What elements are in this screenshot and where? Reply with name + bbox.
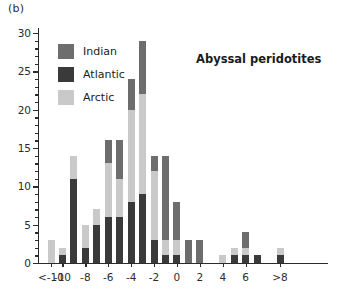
- bar-segment-atlantic: [70, 179, 77, 263]
- x-tick: [51, 263, 52, 267]
- x-tick: [108, 263, 109, 267]
- y-tick: [35, 202, 38, 203]
- x-tick: [131, 263, 132, 267]
- x-tick-label: -6: [103, 271, 113, 283]
- bar: [139, 41, 146, 263]
- bar-segment-arctic: [173, 240, 180, 255]
- y-tick: [35, 64, 38, 65]
- bar: [116, 140, 123, 263]
- bar-segment-atlantic: [93, 225, 100, 263]
- legend-label-atlantic: Atlantic: [83, 68, 125, 81]
- x-tick-label: 6: [242, 271, 249, 283]
- bar-segment-atlantic: [242, 255, 249, 263]
- y-tick: [35, 41, 38, 42]
- x-tick-label: -2: [149, 271, 159, 283]
- y-tick-label: 20: [18, 104, 31, 116]
- y-tick: [35, 179, 38, 180]
- legend-item-atlantic: Atlantic: [58, 67, 125, 82]
- x-tick: [280, 263, 281, 267]
- y-tick: [35, 240, 38, 241]
- bar: [128, 79, 135, 263]
- bar-segment-atlantic: [59, 255, 66, 263]
- bar: [105, 140, 112, 263]
- bar: [93, 209, 100, 263]
- y-tick-label: 30: [18, 27, 31, 39]
- legend-swatch-atlantic: [58, 67, 74, 82]
- x-tick: [200, 263, 201, 267]
- bar-segment-arctic: [116, 179, 123, 217]
- y-tick: [33, 110, 39, 111]
- bar: [242, 232, 249, 263]
- y-tick: [33, 71, 39, 72]
- legend-label-arctic: Arctic: [83, 91, 114, 104]
- y-tick: [35, 248, 38, 249]
- y-tick-label: 0: [24, 257, 31, 269]
- y-tick: [35, 163, 38, 164]
- bar: [70, 156, 77, 263]
- x-tick: [154, 263, 155, 267]
- x-tick: [246, 263, 247, 267]
- bar: [48, 240, 55, 263]
- y-tick: [35, 171, 38, 172]
- bar-segment-arctic: [277, 248, 284, 256]
- legend-item-indian: Indian: [58, 44, 125, 59]
- y-tick: [33, 186, 39, 187]
- y-tick: [35, 232, 38, 233]
- x-tick: [62, 263, 63, 267]
- bar-segment-indian: [105, 140, 112, 163]
- bar-segment-indian: [151, 156, 158, 171]
- bar-segment-atlantic: [116, 217, 123, 263]
- bar-segment-atlantic: [254, 255, 261, 263]
- bar-segment-indian: [185, 240, 192, 263]
- y-tick: [33, 225, 39, 226]
- bar: [173, 202, 180, 263]
- bar: [277, 248, 284, 263]
- legend-item-arctic: Arctic: [58, 90, 125, 105]
- legend: Indian Atlantic Arctic: [58, 44, 125, 113]
- y-tick: [33, 33, 39, 34]
- bar-segment-arctic: [162, 240, 169, 255]
- x-tick: [177, 263, 178, 267]
- legend-label-indian: Indian: [83, 45, 117, 58]
- bar-segment-arctic: [219, 255, 226, 263]
- bar-segment-atlantic: [173, 255, 180, 263]
- y-tick: [33, 263, 39, 264]
- bar-segment-indian: [139, 41, 146, 95]
- y-axis-line: [38, 28, 39, 263]
- x-tick: [85, 263, 86, 267]
- y-tick-label: 25: [18, 65, 31, 77]
- bar-segment-arctic: [93, 209, 100, 224]
- y-tick: [35, 117, 38, 118]
- bar: [231, 248, 238, 263]
- y-tick-label: 15: [18, 142, 31, 154]
- bar-segment-arctic: [231, 248, 238, 256]
- x-tick-label: -10: [54, 271, 71, 283]
- y-tick: [35, 56, 38, 57]
- bar-segment-indian: [196, 240, 203, 263]
- bar-segment-arctic: [139, 94, 146, 194]
- y-tick: [35, 217, 38, 218]
- x-tick-label: 4: [219, 271, 226, 283]
- bar-segment-arctic: [59, 248, 66, 256]
- x-tick-label: -8: [80, 271, 90, 283]
- y-tick: [35, 125, 38, 126]
- x-tick: [223, 263, 224, 267]
- bar: [162, 156, 169, 263]
- bar-segment-atlantic: [82, 248, 89, 263]
- bar-segment-arctic: [82, 225, 89, 248]
- bar-segment-atlantic: [139, 194, 146, 263]
- bar-segment-indian: [173, 202, 180, 240]
- panel-label: (b): [8, 2, 24, 15]
- bar-segment-indian: [128, 79, 135, 110]
- bar: [151, 156, 158, 263]
- y-tick: [35, 156, 38, 157]
- legend-swatch-arctic: [58, 90, 74, 105]
- y-tick: [35, 79, 38, 80]
- chart-title: Abyssal peridotites: [196, 52, 321, 66]
- bar-segment-arctic: [48, 240, 55, 263]
- bar-segment-indian: [242, 232, 249, 247]
- x-tick-label: -4: [126, 271, 136, 283]
- bar-segment-atlantic: [105, 217, 112, 263]
- y-tick-label: 10: [18, 180, 31, 192]
- y-tick: [35, 209, 38, 210]
